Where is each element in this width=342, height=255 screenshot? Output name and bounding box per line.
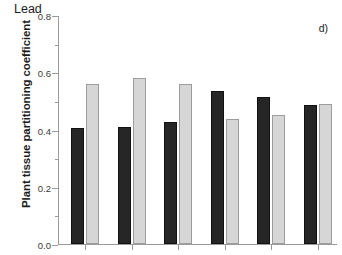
plot-area: 0.00.20.40.60.8 123456: [58, 16, 337, 245]
y-tick-minor: [55, 216, 58, 217]
y-axis-line: [58, 16, 59, 245]
bar: [257, 97, 270, 244]
bar: [319, 104, 332, 244]
x-axis-line: [58, 244, 337, 245]
y-tick-label: 0.6: [38, 68, 51, 79]
y-tick-label: 0.0: [38, 240, 51, 251]
y-axis-label: Plant tissue partitioning coefficient: [20, 4, 32, 224]
x-tick-mark: [132, 245, 133, 250]
y-tick-mark: [52, 188, 58, 189]
y-tick-label: 0.8: [38, 11, 51, 22]
bar: [179, 84, 192, 244]
y-tick-label: 0.4: [38, 125, 51, 136]
bar: [272, 115, 285, 244]
y-tick-mark: [52, 131, 58, 132]
bar-chart: Plant tissue partitioning coefficient Le…: [0, 0, 342, 255]
x-tick-mark: [318, 245, 319, 250]
bar: [211, 91, 224, 244]
x-tick-mark: [271, 245, 272, 250]
y-tick-label: 0.2: [38, 182, 51, 193]
y-tick-minor: [55, 45, 58, 46]
bar: [304, 105, 317, 244]
y-tick-minor: [55, 159, 58, 160]
bar: [226, 119, 239, 244]
y-tick-mark: [52, 16, 58, 17]
bar: [86, 84, 99, 244]
bar: [118, 127, 131, 244]
bar: [133, 78, 146, 244]
x-tick-mark: [85, 245, 86, 250]
x-tick-mark: [225, 245, 226, 250]
bar: [164, 122, 177, 244]
x-tick-mark: [178, 245, 179, 250]
y-tick-mark: [52, 73, 58, 74]
y-tick-mark: [52, 245, 58, 246]
bar: [71, 128, 84, 244]
y-tick-minor: [55, 102, 58, 103]
